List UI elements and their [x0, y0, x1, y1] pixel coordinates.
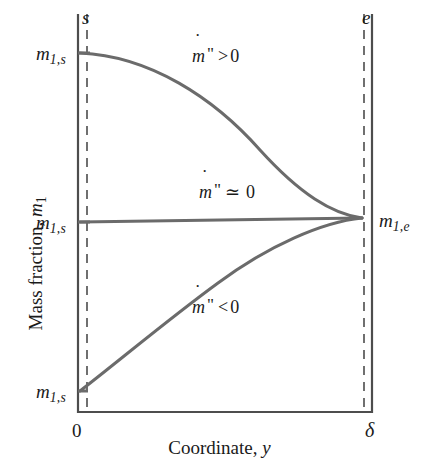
ytick-symbol-edge: m [379, 210, 393, 231]
x-axis-title-symbol: y [262, 437, 270, 458]
station-marker-s: s [82, 8, 89, 27]
annotation-impermeable-prime: " [212, 180, 221, 199]
annotation-blowing-relation: > [214, 46, 230, 66]
xtick-label-delta: δ [365, 420, 374, 440]
station-marker-e: e [362, 8, 370, 27]
annotation-suction-value: 0 [230, 297, 239, 317]
ytick-subscript-edge: 1,e [393, 219, 410, 234]
y-axis-title-text: Mass fraction, [25, 217, 46, 330]
x-axis-title: Coordinate, y [0, 438, 439, 457]
annotation-impermeable: m"≃0 [199, 181, 255, 201]
x-axis-title-text: Coordinate, [168, 437, 262, 458]
y-axis-title: Mass fraction, m1 [26, 113, 49, 413]
annotation-blowing-prime: " [205, 44, 214, 63]
ytick-subscript-surface-mid: 1,s [50, 221, 66, 236]
curve-impermeable [80, 218, 362, 222]
ytick-subscript-surface-low: 1,s [50, 390, 66, 405]
annotation-suction: m"<0 [192, 296, 239, 316]
annotation-suction-prime: " [205, 295, 214, 314]
y-axis-title-subscript: 1 [34, 196, 49, 203]
annotation-suction-relation: < [214, 297, 230, 317]
y-axis-title-symbol: m [25, 203, 46, 217]
annotation-impermeable-relation: ≃ [221, 182, 242, 202]
annotation-impermeable-value: 0 [242, 182, 255, 202]
mass-fraction-profile-figure: s e m1,s m1,s m1,s m1,e 0 δ Coordinate, … [0, 0, 439, 466]
annotation-blowing-symbol: m [192, 47, 205, 65]
ytick-symbol-surface-high: m [36, 43, 50, 64]
ytick-subscript-surface-high: 1,s [50, 52, 66, 67]
ytick-label-edge: m1,e [379, 211, 410, 234]
ytick-label-surface-high: m1,s [36, 44, 66, 67]
annotation-impermeable-symbol: m [199, 183, 212, 201]
annotation-suction-symbol: m [192, 298, 205, 316]
annotation-blowing: m">0 [192, 45, 239, 65]
annotation-blowing-value: 0 [230, 46, 239, 66]
